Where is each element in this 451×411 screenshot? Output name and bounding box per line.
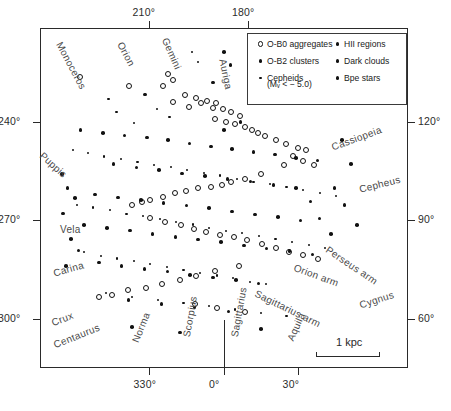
data-point [139,198,143,202]
data-point [242,176,248,182]
data-point [295,145,301,151]
data-point [157,168,161,172]
data-point [225,230,227,232]
data-point [333,186,337,190]
data-point [101,131,105,135]
data-point [259,327,263,331]
data-point [73,196,77,200]
small-dot-marker-icon [255,73,266,83]
tick-label-bottom-0: 330° [134,378,157,390]
data-point [153,164,155,166]
medium-dot-marker-icon [255,56,266,66]
data-point [109,292,115,298]
data-point [211,81,215,85]
data-point [159,218,161,220]
data-point [273,153,277,157]
data-point [203,174,207,178]
data-point [349,162,353,166]
data-point [100,255,102,257]
medium-dot-marker-icon [332,73,343,83]
medium-dot-marker-icon [332,39,343,49]
data-point [97,261,101,265]
data-point [127,298,131,302]
galactic-center-meridian [224,320,225,368]
data-point [168,116,170,118]
data-point [79,128,83,132]
data-point [182,269,184,271]
data-point [276,215,280,219]
data-point [125,213,127,215]
data-point [236,263,242,269]
tick-label-top-1: 180° [232,6,255,18]
data-point [136,161,138,163]
tick-label-left-1: 270° [0,213,21,225]
data-point [222,128,226,132]
data-point [203,172,205,174]
medium-dot-marker-icon [332,56,343,66]
legend-item-bpe-stars: Bpe stars [332,73,389,83]
data-point [214,305,220,311]
data-point [285,186,287,188]
data-point [253,213,257,217]
tick-label-bottom-1: 0° [209,378,219,390]
data-point [281,162,287,168]
legend-item-ob2-clusters: O-B2 clusters [255,56,332,66]
data-point [162,201,166,205]
tick-label-right-2: 60° [418,312,434,324]
data-point [66,186,70,190]
tick-top-0 [149,21,150,28]
data-point [160,194,166,200]
data-point [61,212,65,216]
data-point [130,325,134,329]
legend-label-ob0-aggregates: O-B0 aggregates [267,39,332,49]
data-point [355,223,359,227]
data-point [82,223,86,227]
tick-right-1 [408,220,415,221]
data-point [244,237,250,243]
data-point [116,196,120,200]
data-point [208,184,214,190]
data-point [191,51,193,53]
data-point [191,226,197,232]
data-point [180,172,184,176]
legend-sublabel-cepheids-magnitude: (Mᵥ < − 5.0) [267,79,332,89]
data-point [216,274,218,276]
tick-top-1 [248,21,249,28]
tick-bottom-1 [224,368,225,375]
data-point [192,223,194,225]
constellation-label-vela: Vela [60,224,81,235]
data-point [234,278,238,282]
open-circle-marker-icon [255,39,266,49]
data-point [131,296,133,298]
tick-bottom-2 [298,368,299,375]
data-point [222,50,226,54]
data-point [143,267,147,271]
data-point [219,182,225,188]
data-point [260,312,262,314]
data-point [249,127,255,133]
data-point [252,181,254,183]
data-point [232,121,238,127]
tick-left-0 [33,122,40,123]
tick-label-right-1: 90° [418,213,434,225]
legend-item-ob0-aggregates: O-B0 aggregates [255,39,332,49]
legend-label-ob2-clusters: O-B2 clusters [267,56,319,66]
tick-right-2 [408,319,415,320]
tick-label-top-0: 210° [133,6,156,18]
data-point [143,285,149,291]
data-point [236,178,238,180]
data-point [230,147,234,151]
data-point [249,281,251,283]
legend-item-dark-clouds: Dark clouds [332,56,389,66]
data-point [76,204,78,206]
data-point [237,113,243,119]
data-point [174,235,178,239]
tick-label-left-0: 240° [0,115,21,127]
tick-bottom-0 [149,368,150,375]
data-point [178,222,184,228]
data-point [223,119,229,125]
tick-label-left-2: 300° [0,312,21,324]
data-point [69,237,73,241]
data-point [188,273,192,277]
scale-bar-label: 1 kpc [336,336,362,348]
